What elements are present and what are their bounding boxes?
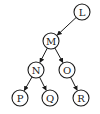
node-label: R: [77, 93, 85, 104]
edge-M-O-arrow: [55, 48, 63, 63]
node-label: O: [63, 65, 71, 76]
node-label: Q: [46, 93, 54, 104]
edge-N-P-arrow: [24, 77, 32, 91]
nodes-group: L M N O P Q R: [12, 4, 90, 106]
node-Q: Q: [42, 90, 58, 106]
edge-M-N-arrow: [40, 48, 47, 62]
node-R: R: [73, 90, 89, 106]
node-label: L: [79, 7, 86, 18]
edge-N-Q-arrow: [40, 77, 47, 90]
node-label: P: [17, 93, 24, 104]
edge-O-R-arrow: [71, 77, 78, 90]
node-label: N: [32, 65, 41, 76]
node-P: P: [12, 90, 28, 106]
node-label: M: [46, 36, 56, 47]
node-N: N: [28, 62, 44, 78]
node-L: L: [74, 4, 90, 20]
edges-group: [24, 17, 77, 90]
node-M: M: [43, 33, 59, 49]
tree-diagram: L M N O P Q R: [0, 0, 100, 114]
edge-L-M-arrow: [57, 17, 76, 35]
node-O: O: [59, 62, 75, 78]
